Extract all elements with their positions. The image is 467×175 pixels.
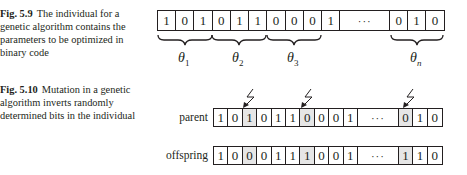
bit-cell: 0 [329, 109, 343, 126]
brace-icon [212, 35, 266, 45]
mutated-bit-cell: 1 [399, 147, 413, 164]
theta-3-label: θ3 [287, 50, 298, 68]
theta-1-label: θ1 [178, 50, 189, 68]
bit-cell: 0 [228, 109, 242, 126]
bit-cell: 0 [257, 109, 271, 126]
bit-cell: 1 [344, 147, 358, 164]
bit-cell: 0 [428, 109, 442, 126]
bit-cell: 1 [286, 109, 300, 126]
bit-cell: 1 [214, 109, 228, 126]
bit-cell: 0 [315, 147, 329, 164]
offspring-label: offspring [140, 149, 208, 161]
mutated-bit-cell: 0 [399, 109, 413, 126]
bit-cell: 1 [286, 147, 300, 164]
brace-icon [391, 35, 443, 45]
parent-label: parent [150, 111, 208, 123]
theta-2-label: θ2 [232, 50, 243, 68]
ellipsis-cell: ··· [358, 109, 399, 126]
ellipsis-cell: ··· [358, 147, 399, 164]
theta-n-label: θn [410, 50, 421, 68]
offspring-bit-string: 1 0 0 0 1 1 1 0 0 1 ··· 1 1 0 [213, 146, 443, 165]
mutated-bit-cell: 1 [243, 109, 257, 126]
brace-icon [158, 35, 212, 45]
bit-cell: 1 [413, 109, 427, 126]
bit-cell: 1 [413, 147, 427, 164]
bit-cell: 0 [329, 147, 343, 164]
parent-bit-string: 1 0 1 0 1 1 0 0 0 1 ··· 0 1 0 [213, 108, 443, 127]
bit-cell: 0 [257, 147, 271, 164]
bit-cell: 0 [428, 147, 442, 164]
bit-cell: 0 [315, 109, 329, 126]
bit-cell: 0 [228, 147, 242, 164]
bit-cell: 1 [272, 109, 286, 126]
mutated-bit-cell: 0 [300, 109, 314, 126]
mutated-bit-cell: 1 [300, 147, 314, 164]
mutated-bit-cell: 0 [243, 147, 257, 164]
bit-cell: 1 [272, 147, 286, 164]
brace-icon [267, 35, 321, 45]
bit-cell: 1 [214, 147, 228, 164]
bit-cell: 1 [344, 109, 358, 126]
